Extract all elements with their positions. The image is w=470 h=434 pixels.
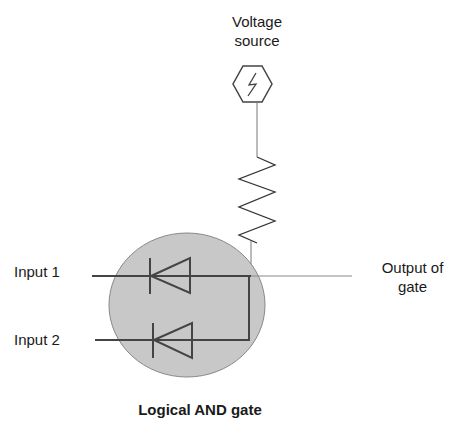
voltage-source-label: Voltage source	[212, 12, 302, 50]
input-2-label: Input 2	[14, 330, 60, 349]
and-gate-diagram	[0, 0, 470, 434]
resistor-symbol	[239, 157, 275, 243]
diagram-title: Logical AND gate	[120, 400, 280, 419]
voltage-source-symbol	[233, 66, 272, 102]
input-1-label: Input 1	[14, 262, 60, 281]
output-label: Output of gate	[365, 258, 460, 296]
